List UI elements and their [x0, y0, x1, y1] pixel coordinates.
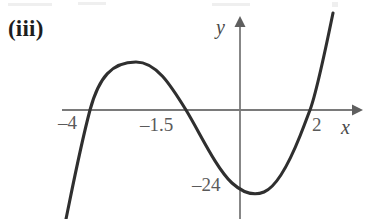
y-intercept-label-minus24: –24: [192, 174, 221, 196]
x-axis-arrowhead: [352, 105, 363, 116]
figure-container: (iii) –4 –1.5 2 –24 y x: [0, 0, 373, 219]
y-axis-label: y: [216, 16, 225, 39]
x-axis-label: x: [341, 116, 350, 139]
x-intercept-label-minus4: –4: [58, 112, 77, 134]
x-intercept-label-2: 2: [312, 114, 322, 136]
cubic-graph-plot: [0, 0, 373, 219]
y-axis-arrowhead: [235, 16, 246, 27]
x-intercept-label-minus1point5: –1.5: [140, 114, 173, 136]
